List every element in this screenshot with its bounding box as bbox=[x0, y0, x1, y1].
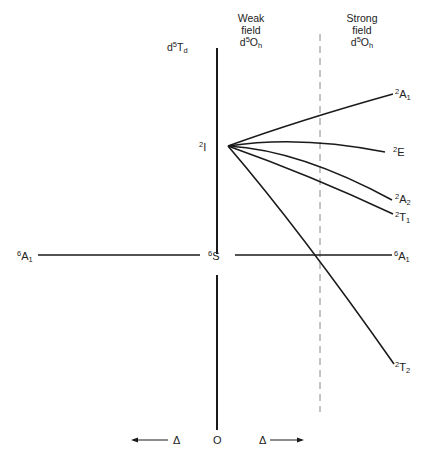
tetrahedral-header: d5Td bbox=[167, 41, 188, 53]
right-delta-label: Δ bbox=[259, 434, 266, 446]
origin-label: O bbox=[213, 434, 222, 446]
left-delta-label: Δ bbox=[173, 434, 180, 446]
term-6S-label: 6S bbox=[208, 250, 220, 262]
curve-2t1 bbox=[228, 146, 393, 214]
right-2E-label: 2E bbox=[393, 146, 405, 158]
right-6A1-label: 6A1 bbox=[394, 250, 410, 262]
left-arrow-head bbox=[131, 438, 138, 443]
energy-diagram-canvas bbox=[0, 0, 430, 460]
right-2A1-label: 2A1 bbox=[395, 88, 411, 100]
term-2I-label: 2I bbox=[199, 141, 206, 153]
left-6A1-label: 6A1 bbox=[17, 250, 33, 262]
right-arrow-head bbox=[297, 438, 304, 443]
right-2A2-label: 2A2 bbox=[395, 193, 411, 205]
right-2T1-label: 2T1 bbox=[395, 211, 410, 223]
right-2T2-label: 2T2 bbox=[395, 361, 410, 373]
curve-2a1 bbox=[228, 94, 393, 146]
weak-field-header: Weak field d5Oh bbox=[228, 12, 274, 48]
curve-2e bbox=[228, 142, 385, 152]
strong-field-header: Strong field d5Oh bbox=[337, 12, 387, 48]
